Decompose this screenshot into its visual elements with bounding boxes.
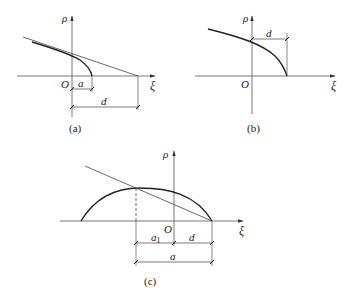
xi-label: ξ <box>150 79 156 93</box>
origin-label: O <box>164 223 172 235</box>
figure-canvas: ρ ξ O a d (a) ρ ξ O d (b) <box>0 0 348 298</box>
origin-label: O <box>241 78 249 90</box>
dimension-d-label: d <box>189 231 195 243</box>
dimension-d-label: d <box>101 95 107 107</box>
diagram-a: ρ ξ O a d (a) <box>17 12 156 135</box>
rho-label: ρ <box>61 12 67 24</box>
origin-label: O <box>61 78 69 90</box>
diagram-c: ρ ξ O a1 d a (c) <box>60 148 245 288</box>
caption-a: (a) <box>69 122 82 135</box>
dimension-d-label: d <box>266 27 272 39</box>
dimension-a1-label: a1 <box>151 231 161 245</box>
dimension-a-label: a <box>170 250 176 262</box>
rho-label: ρ <box>162 148 168 160</box>
dimension-a-label: a <box>78 77 84 89</box>
tangent-line <box>23 37 138 76</box>
caption-c: (c) <box>144 275 157 288</box>
rho-label: ρ <box>242 12 248 24</box>
xi-label: ξ <box>331 79 337 93</box>
diagram-b: ρ ξ O d (b) <box>195 12 337 135</box>
straight-line <box>85 166 212 221</box>
curve <box>32 42 92 76</box>
curve <box>208 29 287 76</box>
caption-b: (b) <box>247 122 260 135</box>
xi-label: ξ <box>239 224 245 238</box>
